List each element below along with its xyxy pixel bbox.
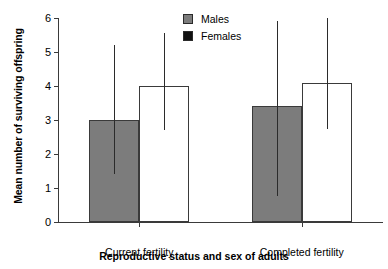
legend-label-females: Females xyxy=(201,30,241,42)
y-axis-line xyxy=(58,18,59,222)
legend-item-females: Females xyxy=(183,27,241,44)
y-axis-tick-mark xyxy=(54,52,58,53)
y-axis-tick-label: 1 xyxy=(45,183,51,194)
chart-figure: Mean number of surviving offspring 01234… xyxy=(0,0,388,269)
error-bar xyxy=(327,18,328,129)
legend-swatch-females-icon xyxy=(183,31,193,41)
y-axis-tick-mark xyxy=(54,222,58,223)
legend-label-males: Males xyxy=(201,13,229,25)
legend-item-males: Males xyxy=(183,10,241,27)
plot-area: 0123456 Current fertilityCompleted ferti… xyxy=(58,18,383,222)
y-axis-tick-mark xyxy=(54,18,58,19)
y-axis-title: Mean number of surviving offspring xyxy=(12,1,24,231)
x-axis-line xyxy=(58,222,383,223)
y-axis-tick-label: 5 xyxy=(45,47,51,58)
y-axis-tick-label: 6 xyxy=(45,13,51,24)
chart-legend: Males Females xyxy=(183,10,241,44)
error-bar xyxy=(114,45,115,174)
error-bar xyxy=(164,33,165,130)
y-axis-tick-label: 2 xyxy=(45,149,51,160)
x-axis-tick-mark xyxy=(139,222,140,227)
legend-swatch-males-icon xyxy=(183,14,193,24)
error-bar xyxy=(277,21,278,196)
x-axis-title: Reproductive status and sex of adults xyxy=(0,250,388,262)
y-axis-tick-mark xyxy=(54,120,58,121)
y-axis-tick-mark xyxy=(54,188,58,189)
y-axis-tick-mark xyxy=(54,154,58,155)
x-axis-tick-mark xyxy=(302,222,303,227)
y-axis-tick-label: 3 xyxy=(45,115,51,126)
y-axis-tick-label: 4 xyxy=(45,81,51,92)
y-axis-tick-mark xyxy=(54,86,58,87)
y-axis-tick-label: 0 xyxy=(45,217,51,228)
